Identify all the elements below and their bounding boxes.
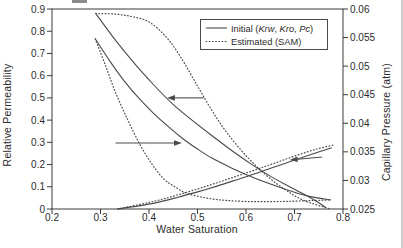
left-axis-title: Relative Permeability xyxy=(1,63,13,166)
right-tick-label: 0.04 xyxy=(350,118,370,129)
legend-entry-initial: Initial (Krw, Kro, Pc) xyxy=(231,24,313,34)
right-tick-label: 0.06 xyxy=(350,4,370,15)
x-tick-label: 0.3 xyxy=(94,212,108,223)
right-tick-label: 0.045 xyxy=(350,89,375,100)
legend: Initial (Krw, Kro, Pc) Estimated (SAM) xyxy=(201,20,328,50)
curve-pc-estimated xyxy=(95,39,331,202)
left-tick-label: 0.1 xyxy=(31,181,45,192)
legend-entry-estimated: Estimated (SAM) xyxy=(231,37,301,47)
x-tick-label: 0.7 xyxy=(288,212,302,223)
arrow-head xyxy=(174,140,182,146)
x-tick-label: 0.2 xyxy=(45,212,59,223)
left-tick-label: 0.5 xyxy=(31,92,45,103)
x-tick-label: 0.5 xyxy=(191,212,205,223)
right-axis-title: Capillary Pressure (atm) xyxy=(380,63,392,181)
left-tick-label: 0.8 xyxy=(31,26,45,37)
left-tick-label: 0.6 xyxy=(31,70,45,81)
x-tick-label: 0.6 xyxy=(239,212,253,223)
x-tick-label: 0.8 xyxy=(336,212,350,223)
right-tick-label: 0.05 xyxy=(350,61,370,72)
left-tick-label: 0 xyxy=(39,204,45,215)
right-tick-label: 0.025 xyxy=(350,204,375,215)
figure-canvas: 0.20.30.40.50.60.70.800.10.20.30.40.50.6… xyxy=(0,0,403,248)
dual-axis-line-chart: 0.20.30.40.50.60.70.800.10.20.30.40.50.6… xyxy=(0,0,403,248)
right-tick-label: 0.03 xyxy=(350,175,370,186)
x-tick-label: 0.4 xyxy=(142,212,156,223)
left-tick-label: 0.9 xyxy=(31,4,45,15)
scan-artifact-mark xyxy=(72,0,87,3)
curve-krw-initial xyxy=(118,148,332,209)
left-tick-label: 0.7 xyxy=(31,48,45,59)
left-tick-label: 0.3 xyxy=(31,137,45,148)
right-tick-label: 0.035 xyxy=(350,146,375,157)
axis-pointer-arrows xyxy=(116,95,323,162)
curve-pc-initial xyxy=(95,39,331,200)
left-tick-label: 0.2 xyxy=(31,159,45,170)
right-tick-label: 0.055 xyxy=(350,32,375,43)
left-tick-label: 0.4 xyxy=(31,115,45,126)
x-axis-title: Water Saturation xyxy=(156,223,238,235)
